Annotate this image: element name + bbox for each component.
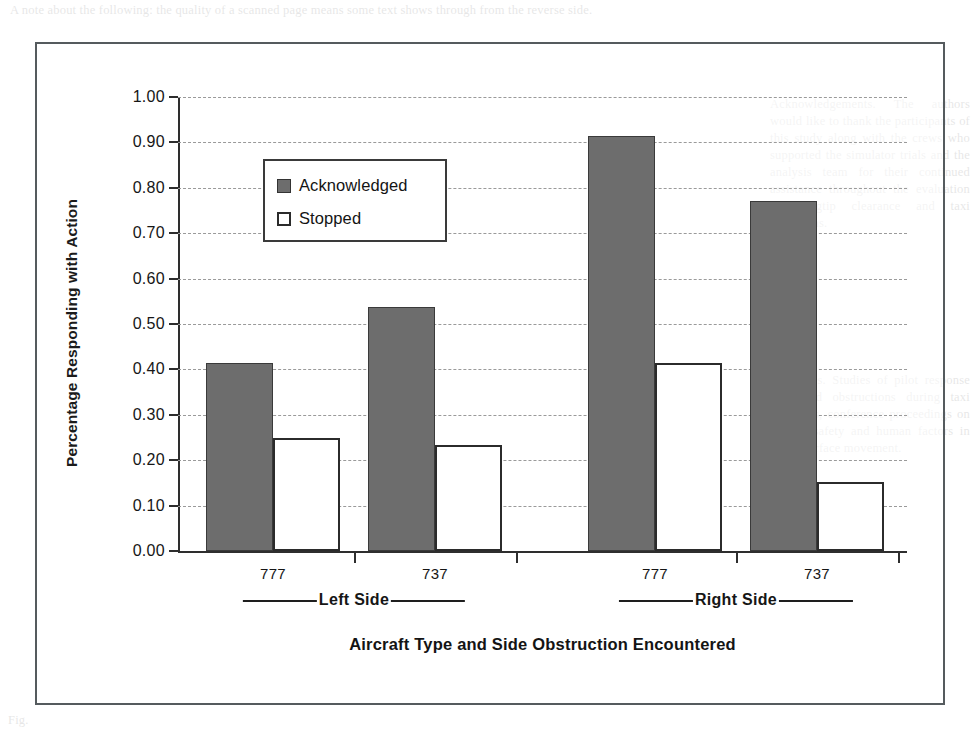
x-axis-category-label: 737 (804, 565, 830, 582)
legend-label-stopped: Stopped (299, 209, 361, 228)
x-axis-group-label: Left Side (243, 591, 465, 609)
chart-legend: Acknowledged Stopped (263, 159, 447, 242)
bar-stopped (817, 482, 884, 551)
y-axis-tick-mark (169, 232, 178, 234)
bar-acknowledged (368, 307, 435, 551)
y-axis-tick-mark (169, 505, 178, 507)
y-axis-title: Percentage Responding with Action (63, 153, 81, 513)
empty-white-square-icon (277, 212, 291, 226)
bar-stopped (273, 438, 340, 552)
group-rule-left (243, 600, 317, 602)
y-axis-tick-label: 0.00 (133, 542, 165, 560)
y-axis-tick-mark (169, 414, 178, 416)
y-axis-tick-mark (169, 278, 178, 280)
filled-gray-square-icon (277, 179, 291, 193)
y-axis-tick-mark (169, 141, 178, 143)
group-rule-right (391, 600, 465, 602)
y-axis-tick-mark (169, 368, 178, 370)
x-axis-tick-mark (898, 551, 900, 563)
x-axis-category-label: 737 (422, 565, 448, 582)
bar-acknowledged (588, 136, 655, 551)
y-axis-tick-mark (169, 323, 178, 325)
legend-label-acknowledged: Acknowledged (299, 176, 408, 195)
bleed-text-top: A note about the following: the quality … (10, 2, 710, 19)
bleed-text-bottom: Fig. (8, 712, 248, 729)
bar-chart: Percentage Responding with Action 1.000.… (37, 44, 947, 707)
group-label-text: Left Side (319, 591, 389, 608)
x-axis-title: Aircraft Type and Side Obstruction Encou… (178, 635, 907, 654)
x-axis-category-label: 777 (260, 565, 286, 582)
y-axis-tick-label: 1.00 (133, 88, 165, 106)
bar-acknowledged (750, 201, 817, 551)
group-rule-left (619, 600, 693, 602)
y-axis-tick-label: 0.50 (133, 315, 165, 333)
x-axis-tick-mark (736, 551, 738, 563)
x-axis-tick-mark (354, 551, 356, 563)
y-axis-tick-label: 0.70 (133, 224, 165, 242)
x-axis-category-label: 777 (642, 565, 668, 582)
y-axis-tick-label: 0.80 (133, 179, 165, 197)
bar-stopped (655, 363, 722, 551)
y-axis-tick-label: 0.40 (133, 360, 165, 378)
group-label-text: Right Side (695, 591, 777, 608)
bar-stopped (435, 445, 502, 551)
x-axis-group-label: Right Side (619, 591, 853, 609)
x-axis-baseline (178, 551, 907, 553)
y-axis-tick-label: 0.20 (133, 451, 165, 469)
y-axis-tick-mark (169, 459, 178, 461)
y-axis-tick-label: 0.60 (133, 270, 165, 288)
y-axis-tick-mark (169, 187, 178, 189)
group-rule-right (779, 600, 853, 602)
bar-acknowledged (206, 363, 273, 551)
legend-item-acknowledged: Acknowledged (277, 169, 435, 202)
y-axis-tick-mark (169, 550, 178, 552)
y-axis-tick-mark (169, 96, 178, 98)
x-axis-tick-mark (516, 551, 518, 563)
y-axis-tick-label: 0.10 (133, 497, 165, 515)
y-axis-tick-label: 0.30 (133, 406, 165, 424)
y-axis-tick-label: 0.90 (133, 133, 165, 151)
figure-frame: Percentage Responding with Action 1.000.… (35, 42, 945, 705)
legend-item-stopped: Stopped (277, 202, 435, 235)
